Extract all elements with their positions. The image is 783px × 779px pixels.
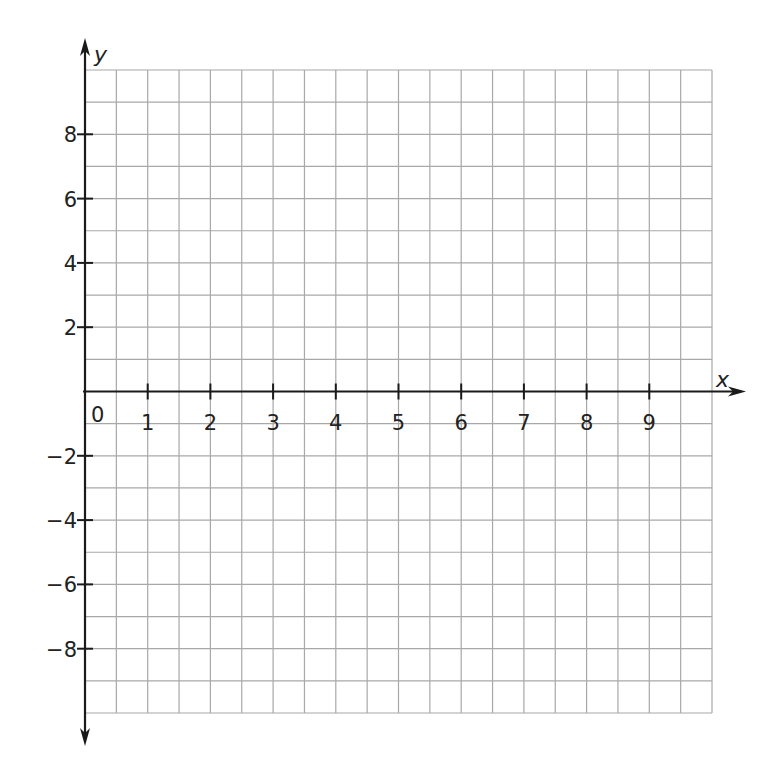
x-tick-label: 3	[266, 411, 279, 435]
y-tick-label: 8	[64, 123, 77, 147]
y-tick-label: 6	[64, 188, 77, 212]
x-tick-label: 5	[392, 411, 405, 435]
y-tick-label: 4	[64, 252, 77, 276]
y-tick-label: 2	[64, 316, 77, 340]
coordinate-plane: yx123456789−8−6−4−224680	[0, 0, 783, 779]
x-tick-label: 1	[141, 411, 154, 435]
x-tick-label: 9	[643, 411, 656, 435]
x-tick-label: 7	[517, 411, 530, 435]
y-tick-label: −8	[46, 638, 77, 662]
y-tick-label: −4	[46, 509, 77, 533]
x-axis-label: x	[715, 367, 730, 392]
origin-label: 0	[91, 403, 104, 427]
x-tick-label: 6	[455, 411, 468, 435]
x-tick-label: 4	[329, 411, 342, 435]
x-tick-label: 8	[580, 411, 593, 435]
y-tick-label: −6	[46, 573, 77, 597]
y-tick-label: −2	[46, 445, 77, 469]
x-tick-label: 2	[204, 411, 217, 435]
y-axis-label: y	[93, 42, 108, 67]
